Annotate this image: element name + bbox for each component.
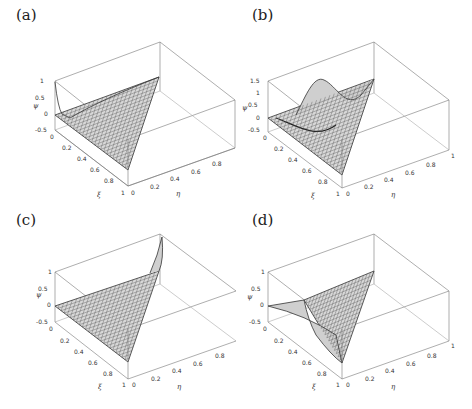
svg-text:-0.5: -0.5 bbox=[248, 126, 260, 133]
svg-text:0.8: 0.8 bbox=[317, 370, 327, 377]
svg-text:0.8: 0.8 bbox=[104, 177, 114, 184]
surface-plot-d: 1 0.5 0 -0.5 ψ 0 0.2 0.4 0.6 0.8 1 ξ 0 0… bbox=[236, 205, 472, 409]
svg-text:1: 1 bbox=[122, 381, 126, 388]
svg-text:0.2: 0.2 bbox=[62, 144, 72, 151]
svg-text:ξ: ξ bbox=[312, 383, 317, 391]
svg-text:0.2: 0.2 bbox=[274, 337, 284, 344]
svg-text:ψ: ψ bbox=[247, 293, 253, 301]
svg-text:0.2: 0.2 bbox=[274, 145, 284, 152]
svg-text:η: η bbox=[176, 190, 181, 198]
svg-text:ξ: ξ bbox=[97, 191, 102, 199]
svg-text:0.6: 0.6 bbox=[193, 360, 203, 367]
svg-text:0.6: 0.6 bbox=[191, 168, 201, 175]
svg-text:1: 1 bbox=[261, 268, 265, 275]
surface-plot-b: 1.5 1 0.5 0 -0.5 ψ 0 0.2 0.4 0.6 0.8 1 ξ… bbox=[236, 0, 472, 205]
svg-text:1: 1 bbox=[256, 89, 260, 96]
svg-text:-0.5: -0.5 bbox=[35, 126, 47, 133]
svg-text:0.5: 0.5 bbox=[251, 285, 261, 292]
svg-text:ψ: ψ bbox=[242, 104, 248, 112]
svg-text:0.2: 0.2 bbox=[150, 183, 160, 190]
svg-text:0.4: 0.4 bbox=[384, 176, 394, 183]
svg-text:ξ: ξ bbox=[98, 383, 103, 391]
svg-text:η: η bbox=[391, 383, 396, 391]
svg-text:0.5: 0.5 bbox=[35, 94, 45, 101]
svg-text:1: 1 bbox=[121, 189, 125, 196]
svg-text:0.5: 0.5 bbox=[248, 101, 258, 108]
svg-text:1: 1 bbox=[451, 342, 455, 349]
svg-text:0: 0 bbox=[263, 134, 267, 141]
svg-text:1: 1 bbox=[40, 77, 44, 84]
svg-text:1: 1 bbox=[336, 381, 340, 388]
svg-text:0: 0 bbox=[49, 325, 53, 332]
svg-text:1.5: 1.5 bbox=[250, 77, 260, 84]
svg-text:0: 0 bbox=[260, 301, 264, 308]
svg-text:0.8: 0.8 bbox=[215, 352, 225, 359]
svg-text:0.4: 0.4 bbox=[74, 348, 84, 355]
svg-text:ψ: ψ bbox=[36, 291, 42, 299]
svg-text:0.6: 0.6 bbox=[406, 360, 416, 367]
svg-text:0.4: 0.4 bbox=[170, 175, 180, 182]
svg-text:0: 0 bbox=[50, 133, 54, 140]
surface-plot-a: 1 0.5 0 -0.5 ψ 0 0.2 0.4 0.6 0.8 1 ξ 0 0… bbox=[0, 0, 236, 205]
svg-text:0: 0 bbox=[256, 114, 260, 121]
svg-text:0: 0 bbox=[346, 190, 350, 197]
svg-text:0: 0 bbox=[263, 325, 267, 332]
svg-text:η: η bbox=[391, 191, 396, 199]
svg-text:0: 0 bbox=[132, 381, 136, 388]
svg-text:0.4: 0.4 bbox=[385, 367, 395, 374]
panel-d: (d) 1 0.5 0 -0.5 ψ 0 0.2 0.4 0.6 0.8 1 ξ… bbox=[236, 205, 472, 409]
svg-text:0.6: 0.6 bbox=[90, 166, 100, 173]
panel-c: (c) 1 0.5 0 -0.5 ψ 0 0.2 0.4 0.6 0.8 1 ξ… bbox=[0, 205, 236, 409]
svg-text:0.6: 0.6 bbox=[88, 359, 98, 366]
svg-text:0.2: 0.2 bbox=[151, 375, 161, 382]
svg-text:0.2: 0.2 bbox=[364, 183, 374, 190]
svg-text:0.8: 0.8 bbox=[103, 370, 113, 377]
panel-a: (a) 1 0.5 0 -0.5 ψ 0 0.2 0.4 0.6 0.8 1 ξ… bbox=[0, 0, 236, 205]
svg-text:0.8: 0.8 bbox=[318, 178, 328, 185]
svg-text:0.4: 0.4 bbox=[288, 348, 298, 355]
svg-text:0.2: 0.2 bbox=[365, 375, 375, 382]
svg-text:0: 0 bbox=[131, 189, 135, 196]
svg-text:-0.5: -0.5 bbox=[249, 318, 261, 325]
svg-text:1: 1 bbox=[451, 152, 455, 159]
svg-text:0: 0 bbox=[47, 301, 51, 308]
svg-text:0.8: 0.8 bbox=[212, 160, 222, 167]
svg-text:1: 1 bbox=[336, 190, 340, 197]
mesh-d bbox=[268, 271, 374, 363]
mesh-c bbox=[55, 237, 163, 362]
svg-text:0.6: 0.6 bbox=[302, 167, 312, 174]
svg-text:-0.5: -0.5 bbox=[36, 318, 48, 325]
svg-text:0.6: 0.6 bbox=[302, 359, 312, 366]
svg-text:0.8: 0.8 bbox=[427, 352, 437, 359]
svg-text:0: 0 bbox=[346, 381, 350, 388]
svg-text:0.2: 0.2 bbox=[60, 337, 70, 344]
svg-text:η: η bbox=[177, 383, 182, 391]
panel-b: (b) 1.5 1 0.5 0 -0.5 ψ 0 0.2 0.4 0.6 0.8… bbox=[236, 0, 472, 205]
svg-text:0: 0 bbox=[44, 110, 48, 117]
svg-text:ψ: ψ bbox=[33, 102, 39, 110]
svg-text:ξ: ξ bbox=[311, 192, 316, 200]
svg-text:0.6: 0.6 bbox=[405, 169, 415, 176]
surface-plot-c: 1 0.5 0 -0.5 ψ 0 0.2 0.4 0.6 0.8 1 ξ 0 0… bbox=[0, 205, 236, 409]
svg-text:0.8: 0.8 bbox=[426, 161, 436, 168]
svg-text:0.4: 0.4 bbox=[77, 155, 87, 162]
svg-text:0.4: 0.4 bbox=[288, 156, 298, 163]
svg-text:1: 1 bbox=[48, 268, 52, 275]
svg-text:0.4: 0.4 bbox=[172, 367, 182, 374]
